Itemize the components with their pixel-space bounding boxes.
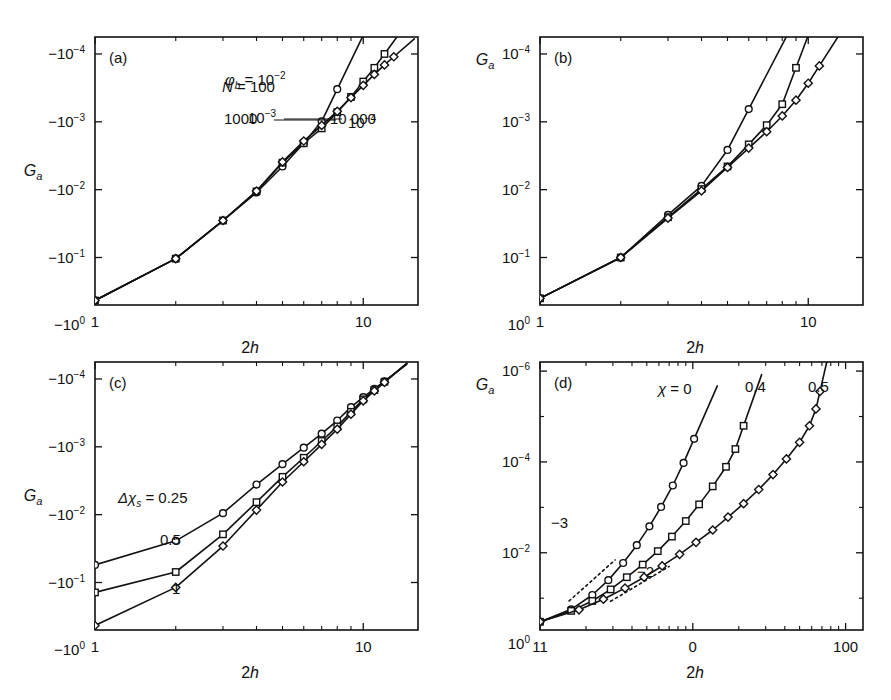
x-tick-label: 0 [689, 638, 697, 655]
x-axis-title: 2h [686, 664, 704, 681]
data-point-marker-circle [680, 459, 687, 466]
x-axis-ticks [540, 37, 808, 305]
data-point-marker-circle [633, 542, 640, 549]
panel-d: 1101002h10010−210−410−6Ga(d)χ = 00.40.5−… [476, 353, 863, 681]
panel-tag: (c) [109, 374, 127, 391]
y-tick-label: −10−2 [48, 180, 85, 198]
data-point-marker-square [683, 518, 689, 524]
data-point-marker-square [669, 533, 675, 539]
series-group [536, 0, 844, 302]
data-point-marker-square [696, 501, 702, 507]
annotation-label: χ = 0 [656, 380, 692, 397]
y-tick-label: −10−2 [48, 505, 85, 523]
data-point-marker-square [624, 574, 630, 580]
data-point-marker-square [655, 548, 661, 554]
y-tick-label: 10−3 [502, 112, 531, 130]
data-point-marker-diamond [621, 584, 629, 592]
x-axis-title: 2h [686, 339, 704, 356]
series-line [540, 0, 826, 298]
x-axis-title: 2h [241, 339, 259, 356]
y-axis-title: Ga [476, 376, 495, 396]
plot-frame [540, 37, 863, 305]
annotation-label: 0.5 [160, 531, 181, 548]
y-axis-ticks [540, 54, 863, 258]
series-line [95, 23, 407, 300]
data-point-marker-circle [220, 510, 227, 517]
y-tick-label: −100 [54, 640, 85, 658]
panel-b: 1102h10010−110−210−310−4Ga(b)N = 1001000… [222, 0, 863, 356]
annotation-label: 10 000 [330, 110, 376, 127]
y-tick-label: 100 [508, 634, 531, 652]
data-point-marker-circle [279, 461, 286, 468]
y-axis-title: Ga [476, 51, 495, 71]
y-tick-label: 10−2 [502, 543, 531, 561]
data-point-marker-square [710, 483, 716, 489]
annotation-label: 0.5 [808, 378, 829, 395]
data-point-marker-square [732, 446, 738, 452]
data-point-marker-diamond [91, 621, 99, 629]
annotation-label: 0.4 [745, 378, 766, 395]
data-point-marker-square [173, 569, 179, 575]
data-point-marker-diamond [805, 422, 813, 430]
series-circle [537, 19, 796, 302]
y-tick-label: 10−4 [502, 44, 531, 62]
data-point-marker-diamond [812, 405, 820, 413]
y-tick-label: −10−3 [48, 112, 85, 130]
annotation-label: N = 100 [222, 78, 275, 95]
y-tick-label: −10−3 [48, 437, 85, 455]
series-line [95, 364, 407, 564]
x-tick-label: 10 [355, 638, 372, 655]
series-circle [92, 364, 407, 568]
data-point-marker-square [607, 586, 613, 592]
y-tick-label: −10−1 [48, 248, 85, 266]
data-point-marker-circle [658, 504, 665, 511]
series-circle [92, 18, 372, 304]
data-point-marker-circle [300, 444, 307, 451]
data-point-marker-diamond [815, 62, 823, 70]
plot-frame [540, 362, 863, 630]
y-tick-label: −10−1 [48, 573, 85, 591]
x-tick-label: 11 [532, 638, 548, 655]
annotations: Δχs = 0.250.51 [117, 489, 188, 597]
series-group [91, 363, 407, 629]
y-tick-label: 10−2 [502, 180, 531, 198]
data-point-marker-circle [691, 435, 698, 442]
data-point-marker-square [253, 499, 259, 505]
series-line [95, 18, 371, 300]
annotation-label: −2 [637, 563, 654, 580]
annotations: χ = 00.40.5−3−2 [551, 378, 829, 580]
x-tick-label: 10 [800, 313, 817, 330]
annotation-label: 1 [172, 580, 180, 597]
data-point-marker-square [740, 423, 746, 429]
x-tick-label: 1 [91, 313, 99, 330]
y-tick-label: −10−4 [48, 44, 85, 62]
data-point-marker-circle [620, 560, 627, 567]
four-panel-log-log-figure: 1102h−100−10−1−10−2−10−3−10−4Ga(a)φb = 1… [0, 0, 891, 700]
data-point-marker-circle [253, 481, 260, 488]
panel-tag: (d) [554, 374, 572, 391]
data-point-marker-circle [334, 86, 341, 93]
figure-root: 1102h−100−10−1−10−2−10−3−10−4Ga(a)φb = 1… [0, 0, 891, 700]
series-line [540, 375, 762, 622]
annotation-label: 1000 [224, 110, 257, 127]
y-tick-label: 10−4 [502, 452, 531, 470]
data-point-marker-square [779, 101, 785, 107]
y-tick-label: −10−4 [48, 369, 85, 387]
annotation-label: Δχs = 0.25 [117, 489, 188, 509]
panel-tag: (b) [554, 49, 572, 66]
y-tick-label: 10−6 [502, 361, 531, 379]
data-point-marker-circle [318, 430, 325, 437]
panel-c: 1102h−100−10−1−10−2−10−3−10−4Ga(c)Δχs = … [24, 362, 418, 681]
x-axis-ticks [540, 362, 846, 630]
panel-tag: (a) [109, 49, 127, 66]
data-point-marker-circle [669, 482, 676, 489]
data-point-marker-circle [724, 147, 731, 154]
y-axis-ticks [540, 371, 863, 598]
data-point-marker-square [381, 51, 387, 57]
data-point-marker-circle [92, 561, 99, 568]
y-axis-title: Ga [24, 162, 43, 182]
data-point-marker-circle [605, 577, 612, 584]
y-tick-label: −100 [54, 315, 85, 333]
data-point-marker-square [220, 531, 226, 537]
data-point-marker-circle [745, 106, 752, 113]
